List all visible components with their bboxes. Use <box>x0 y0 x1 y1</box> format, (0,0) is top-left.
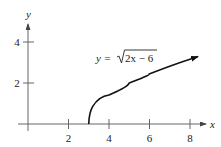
x-tick-label: 6 <box>147 132 153 144</box>
y-tick-label: 4 <box>14 36 20 48</box>
y-axis-label: y <box>25 8 31 20</box>
y-tick-label: 2 <box>14 77 20 89</box>
x-tick-label: 8 <box>187 132 193 144</box>
function-curve <box>89 57 198 124</box>
chart: 2 4 6 8 2 4 x y y = 2x − 6 <box>0 0 221 147</box>
equation-radicand: 2x − 6 <box>125 52 154 64</box>
equation-label: y = 2x − 6 <box>95 50 157 64</box>
equation-lhs: y = <box>95 52 111 64</box>
x-tick-label: 4 <box>106 132 112 144</box>
x-tick-label: 2 <box>66 132 72 144</box>
x-axis-label: x <box>209 118 215 130</box>
